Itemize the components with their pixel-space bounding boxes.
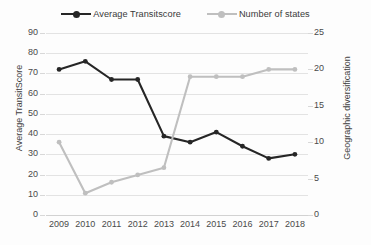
y-left-tick-mark xyxy=(40,53,45,54)
y-left-tick-mark xyxy=(40,73,45,74)
legend-marker-grey-line xyxy=(207,9,237,19)
y-left-tick-label: 20 xyxy=(4,169,38,179)
legend-item-average-transitscore[interactable]: Average Transitscore xyxy=(61,9,181,19)
data-point[interactable] xyxy=(188,140,193,145)
y-right-tick-mark xyxy=(308,215,313,216)
y-right-tick-label: 10 xyxy=(314,136,348,146)
legend-marker-dark-line xyxy=(61,9,91,19)
y-right-tick-label: 25 xyxy=(314,27,348,37)
y-right-tick-mark xyxy=(308,69,313,70)
y-right-tick-label: 5 xyxy=(314,173,348,183)
data-point[interactable] xyxy=(240,74,245,79)
chart-container: Average Transitscore Number of states Av… xyxy=(0,0,371,245)
legend-item-number-of-states[interactable]: Number of states xyxy=(207,9,310,19)
y-left-tick-label: 10 xyxy=(4,189,38,199)
data-point[interactable] xyxy=(266,67,271,72)
series-line xyxy=(59,69,295,193)
y-left-tick-label: 80 xyxy=(4,47,38,57)
series-layer xyxy=(46,33,308,215)
data-point[interactable] xyxy=(83,59,88,64)
plot-area xyxy=(46,33,308,215)
y-left-tick-mark xyxy=(40,114,45,115)
gridline xyxy=(46,215,308,216)
data-point[interactable] xyxy=(83,191,88,196)
y-left-tick-label: 70 xyxy=(4,67,38,77)
data-point[interactable] xyxy=(162,134,167,139)
data-point[interactable] xyxy=(162,165,167,170)
y-left-tick-label: 90 xyxy=(4,27,38,37)
data-point[interactable] xyxy=(109,180,114,185)
data-point[interactable] xyxy=(135,77,140,82)
y-right-tick-mark xyxy=(308,106,313,107)
chart-legend: Average Transitscore Number of states xyxy=(0,4,371,24)
x-tick-label: 2018 xyxy=(275,219,315,229)
y-right-tick-label: 0 xyxy=(314,209,348,219)
data-point[interactable] xyxy=(214,130,219,135)
y-right-tick-label: 15 xyxy=(314,100,348,110)
data-point[interactable] xyxy=(135,173,140,178)
data-point[interactable] xyxy=(57,67,62,72)
y-left-tick-mark xyxy=(40,94,45,95)
y-left-tick-label: 60 xyxy=(4,88,38,98)
y-right-tick-mark xyxy=(308,179,313,180)
series-line xyxy=(59,61,295,158)
legend-label-number-of-states: Number of states xyxy=(239,9,310,19)
y-left-tick-mark xyxy=(40,134,45,135)
y-left-tick-label: 50 xyxy=(4,108,38,118)
y-right-tick-mark xyxy=(308,142,313,143)
y-left-tick-mark xyxy=(40,175,45,176)
legend-label-average-transitscore: Average Transitscore xyxy=(93,9,181,19)
data-point[interactable] xyxy=(57,140,62,145)
data-point[interactable] xyxy=(293,67,298,72)
y-left-tick-mark xyxy=(40,33,45,34)
data-point[interactable] xyxy=(266,156,271,161)
y-left-tick-label: 40 xyxy=(4,128,38,138)
y-left-tick-mark xyxy=(40,215,45,216)
y-left-tick-mark xyxy=(40,154,45,155)
y-left-tick-label: 0 xyxy=(4,209,38,219)
data-point[interactable] xyxy=(240,144,245,149)
y-right-tick-mark xyxy=(308,33,313,34)
data-point[interactable] xyxy=(188,74,193,79)
data-point[interactable] xyxy=(109,77,114,82)
y-right-tick-label: 20 xyxy=(314,63,348,73)
y-left-tick-label: 30 xyxy=(4,148,38,158)
y-left-tick-mark xyxy=(40,195,45,196)
data-point[interactable] xyxy=(214,74,219,79)
data-point[interactable] xyxy=(293,152,298,157)
